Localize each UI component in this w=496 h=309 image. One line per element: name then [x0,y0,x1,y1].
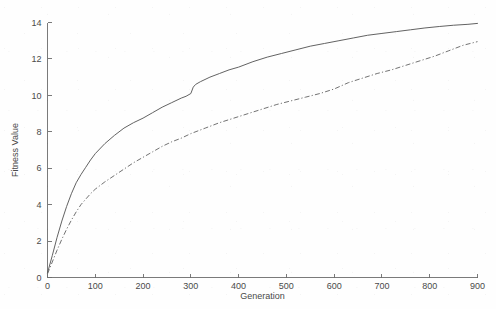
x-tick-label: 800 [422,281,437,291]
x-tick-label: 100 [88,281,103,291]
y-tick-label: 10 [31,91,41,101]
series-line-solid [48,23,478,273]
x-axis-ticks [48,274,478,278]
series-line-dash-dot [48,42,478,274]
y-axis-title: Fitness Value [10,123,20,177]
x-tick-label: 0 [45,281,50,291]
y-tick-label: 0 [36,273,41,283]
x-axis-title: Generation [240,291,285,301]
x-tick-label: 400 [231,281,246,291]
y-tick-label: 2 [36,236,41,246]
figure-canvas: 0100200300400500600700800900 02468101214… [0,0,496,309]
x-axis-tick-labels: 0100200300400500600700800900 [45,281,485,291]
x-tick-label: 700 [374,281,389,291]
x-tick-label: 500 [279,281,294,291]
x-tick-label: 600 [327,281,342,291]
y-tick-label: 6 [36,163,41,173]
y-tick-label: 12 [31,54,41,64]
y-axis-ticks [48,23,52,278]
fitness-vs-generation-chart: 0100200300400500600700800900 02468101214… [0,0,496,309]
x-tick-label: 200 [136,281,151,291]
data-series-group [48,23,478,273]
y-tick-label: 8 [36,127,41,137]
y-axis-tick-labels: 02468101214 [31,18,41,283]
axes-group: 0100200300400500600700800900 02468101214 [31,18,485,291]
y-tick-label: 4 [36,200,41,210]
x-tick-label: 900 [470,281,485,291]
y-tick-label: 14 [31,18,41,28]
x-tick-label: 300 [183,281,198,291]
